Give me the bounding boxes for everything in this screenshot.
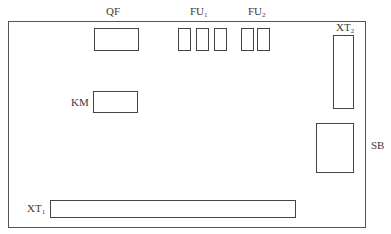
fu2-fuse-box-1 [241,28,254,51]
fu2-fuse-box-2 [257,28,270,51]
fu1-fuse-box-1 [178,28,191,51]
xt2-terminal-block [333,35,354,109]
xt1-terminal-block [50,200,296,218]
fu1-fuse-box-3 [214,28,227,51]
xt1-label: XT1 [27,203,45,218]
km-contactor-box [93,91,138,113]
fu1-label: FU1 [190,6,208,21]
sb-label: SB [371,140,384,151]
fu2-label: FU2 [248,6,266,21]
sb-button-box [316,123,354,173]
mounting-board [8,21,366,228]
km-label: KM [71,97,89,108]
qf-label: QF [106,6,120,17]
fu1-fuse-box-2 [196,28,209,51]
qf-breaker-box [94,28,139,51]
